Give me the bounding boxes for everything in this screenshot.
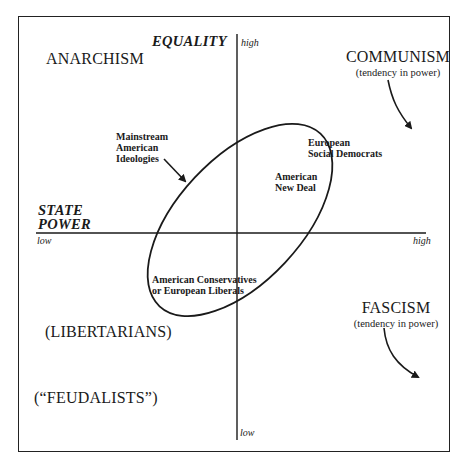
equality-high-label: high (241, 38, 259, 48)
esd-line1: European (308, 137, 382, 148)
state-power-high-label: high (413, 236, 431, 246)
mainstream-line2: American (116, 142, 168, 153)
communism-label: COMMUNISM (338, 49, 458, 65)
equality-low-label: low (240, 428, 254, 438)
european-social-democrats-label: European Social Democrats (308, 137, 382, 159)
fascism-note: (tendency in power) (340, 319, 452, 330)
communism-label-group: COMMUNISM (tendency in power) (338, 49, 458, 79)
state-power-title-line2: POWER (38, 217, 91, 231)
new-deal-line1: American (275, 171, 317, 182)
anarchism-label: ANARCHISM (46, 51, 144, 67)
mainstream-ideologies-label: Mainstream American Ideologies (116, 131, 168, 164)
conservatives-line2: or European Liberals (152, 285, 257, 296)
state-power-axis-title: STATE POWER (38, 203, 91, 231)
mainstream-line1: Mainstream (116, 131, 168, 142)
fascism-arrow-icon (384, 328, 418, 377)
new-deal-line2: New Deal (275, 182, 317, 193)
libertarians-label: (LIBERTARIANS) (45, 324, 172, 340)
fascism-label: FASCISM (340, 300, 452, 316)
state-power-title-line1: STATE (38, 203, 91, 217)
american-conservatives-label: American Conservatives or European Liber… (152, 274, 257, 296)
state-power-low-label: low (37, 236, 51, 246)
communism-note: (tendency in power) (338, 68, 458, 79)
esd-line2: Social Democrats (308, 148, 382, 159)
feudalists-label: (“FEUDALISTS”) (34, 390, 158, 406)
american-new-deal-label: American New Deal (275, 171, 317, 193)
fascism-label-group: FASCISM (tendency in power) (340, 300, 452, 330)
mainstream-line3: Ideologies (116, 153, 168, 164)
communism-arrow-icon (388, 80, 411, 128)
mainstream-ideologies-ellipse (114, 91, 366, 348)
conservatives-line1: American Conservatives (152, 274, 257, 285)
equality-axis-title: EQUALITY (152, 34, 227, 49)
